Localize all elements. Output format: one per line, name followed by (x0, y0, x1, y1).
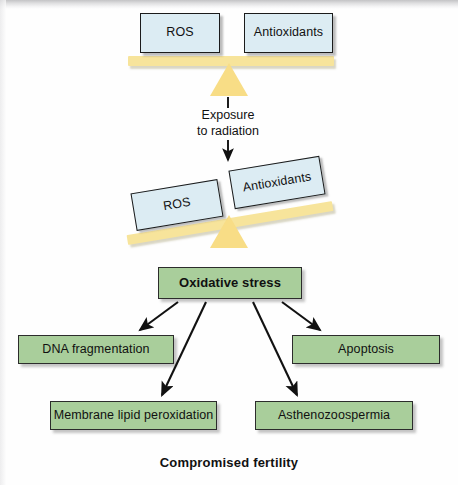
diagram-canvas: ROS Antioxidants Exposure to radiation R… (0, 0, 458, 485)
exposure-to-radiation-label: Exposure to radiation (176, 108, 280, 139)
box-asthenozoospermia-label: Asthenozoospermia (278, 409, 390, 423)
box-antioxidants-balanced[interactable]: Antioxidants (244, 13, 333, 53)
exposure-label-line2: to radiation (176, 124, 280, 140)
scan-edge-shadow-left (0, 0, 6, 485)
box-ros-tilted-label: ROS (162, 196, 191, 214)
box-antioxidants-balanced-label: Antioxidants (254, 26, 323, 40)
box-apoptosis[interactable]: Apoptosis (292, 335, 440, 364)
scan-edge-shadow-top (0, 0, 458, 9)
arrow-stress-to-apoptosis (282, 302, 320, 330)
box-dna-fragmentation-label: DNA fragmentation (42, 343, 149, 357)
box-oxidative-stress-label: Oxidative stress (179, 276, 281, 290)
box-apoptosis-label: Apoptosis (338, 343, 394, 357)
box-antioxidants-tilted-label: Antioxidants (242, 170, 313, 195)
balance-fulcrum-top (210, 63, 248, 96)
box-asthenozoospermia[interactable]: Asthenozoospermia (255, 401, 413, 430)
arrow-stress-to-dna-fragmentation (140, 302, 178, 330)
box-antioxidants-tilted[interactable]: Antioxidants (228, 156, 325, 210)
box-ros-balanced-label: ROS (166, 26, 193, 40)
arrow-stress-to-asthenozoospermia (253, 302, 297, 395)
box-ros-balanced[interactable]: ROS (140, 13, 220, 53)
exposure-label-line1: Exposure (176, 108, 280, 124)
box-membrane-lipid-peroxidation[interactable]: Membrane lipid peroxidation (50, 401, 217, 430)
balance-fulcrum-tilted (210, 215, 248, 248)
box-dna-fragmentation[interactable]: DNA fragmentation (18, 335, 174, 364)
box-membrane-lipid-peroxidation-label: Membrane lipid peroxidation (54, 409, 214, 423)
box-oxidative-stress[interactable]: Oxidative stress (158, 267, 302, 299)
figure-caption: Compromised fertility (0, 455, 458, 470)
